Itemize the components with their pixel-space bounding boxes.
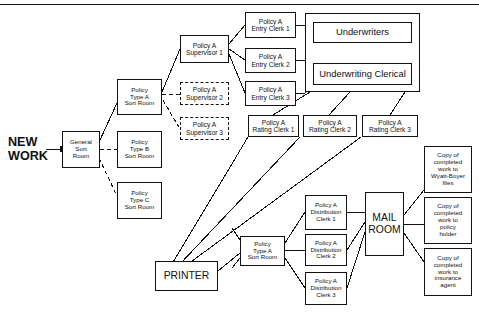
node-general-sort-room[interactable]: GeneralSortRoom [62, 131, 100, 168]
node-copy-wyatt-boyer-files[interactable]: Copy ofcompletedwork toWyatt-Boyerfiles [424, 146, 472, 193]
node-copy-insurance-agent-label: Copy ofcompletedwork toinsuranceagent [432, 255, 465, 290]
node-copy-policy-holder-label: Copy ofcompletedwork topolicyholder [432, 203, 465, 238]
node-underwriters-label: Underwriters [334, 27, 391, 38]
node-policy-a-rating-clerk-3-label: Policy ARating Clerk 3 [367, 119, 413, 134]
node-policy-a-supervisor-3-label: Policy ASupervisor 3 [184, 121, 225, 136]
node-policy-a-entry-clerk-2-label: Policy AEntry Clerk 2 [249, 53, 291, 68]
node-policy-a-distribution-clerk-1[interactable]: Policy ADistributionClerk 1 [305, 195, 347, 230]
node-underwriters[interactable]: Underwriters [313, 22, 412, 43]
node-policy-a-supervisor-3[interactable]: Policy ASupervisor 3 [180, 117, 229, 140]
node-policy-type-b-sort-room[interactable]: PolicyType BSort Room [117, 131, 162, 168]
node-policy-type-c-sort-room-label: PolicyType CSort Room [123, 190, 157, 211]
node-policy-type-a-sort-room-2-label: PolicyType ASort Room [246, 241, 280, 262]
node-policy-a-entry-clerk-1[interactable]: Policy AEntry Clerk 1 [245, 12, 296, 38]
node-underwriting-clerical[interactable]: Underwriting Clerical [313, 63, 412, 85]
node-policy-a-rating-clerk-3[interactable]: Policy ARating Clerk 3 [362, 115, 418, 137]
node-policy-a-rating-clerk-1-label: Policy ARating Clerk 1 [251, 119, 297, 134]
node-policy-a-rating-clerk-2[interactable]: Policy ARating Clerk 2 [303, 115, 357, 137]
node-policy-a-entry-clerk-1-label: Policy AEntry Clerk 1 [249, 18, 291, 33]
node-mail-room-label: MAILROOM [366, 212, 402, 235]
node-general-sort-room-label: GeneralSortRoom [68, 139, 94, 160]
node-policy-type-a-sort-room[interactable]: PolicyType ASort Room [117, 79, 162, 115]
node-policy-a-rating-clerk-1[interactable]: Policy ARating Clerk 1 [248, 115, 299, 137]
node-policy-a-distribution-clerk-2-label: Policy ADistributionClerk 2 [309, 240, 344, 261]
node-copy-wyatt-boyer-files-label: Copy ofcompletedwork toWyatt-Boyerfiles [429, 152, 467, 187]
node-printer-label: PRINTER [162, 270, 212, 282]
node-policy-a-distribution-clerk-2[interactable]: Policy ADistributionClerk 2 [305, 234, 347, 266]
node-policy-a-entry-clerk-3-label: Policy AEntry Clerk 3 [249, 86, 291, 101]
node-copy-policy-holder[interactable]: Copy ofcompletedwork topolicyholder [424, 197, 472, 244]
node-policy-type-c-sort-room[interactable]: PolicyType CSort Room [117, 182, 162, 219]
node-policy-type-a-sort-room-2[interactable]: PolicyType ASort Room [240, 236, 285, 266]
node-copy-insurance-agent[interactable]: Copy ofcompletedwork toinsuranceagent [424, 248, 472, 296]
node-underwriting-clerical-label: Underwriting Clerical [317, 69, 408, 80]
node-policy-a-entry-clerk-2[interactable]: Policy AEntry Clerk 2 [245, 48, 296, 73]
new-work-input-label: NEWWORK [8, 135, 48, 163]
node-policy-a-supervisor-1-label: Policy ASupervisor 1 [184, 42, 225, 57]
node-policy-a-supervisor-2-label: Policy ASupervisor 2 [184, 86, 225, 101]
node-policy-a-rating-clerk-2-label: Policy ARating Clerk 2 [307, 119, 353, 134]
node-policy-a-entry-clerk-3[interactable]: Policy AEntry Clerk 3 [245, 81, 296, 106]
diagram-canvas: NEWWORK GeneralSortRoom PolicyType ASort… [0, 0, 479, 319]
node-policy-a-distribution-clerk-3[interactable]: Policy ADistributionClerk 3 [305, 272, 347, 305]
node-policy-a-distribution-clerk-1-label: Policy ADistributionClerk 1 [309, 202, 344, 223]
node-printer[interactable]: PRINTER [155, 261, 218, 291]
node-policy-type-b-sort-room-label: PolicyType BSort Room [123, 139, 157, 160]
node-policy-a-supervisor-1[interactable]: Policy ASupervisor 1 [180, 35, 229, 63]
node-mail-room[interactable]: MAILROOM [365, 192, 404, 256]
node-policy-type-a-sort-room-label: PolicyType ASort Room [123, 87, 157, 108]
node-policy-a-distribution-clerk-3-label: Policy ADistributionClerk 3 [309, 278, 344, 299]
node-policy-a-supervisor-2[interactable]: Policy ASupervisor 2 [180, 82, 229, 105]
